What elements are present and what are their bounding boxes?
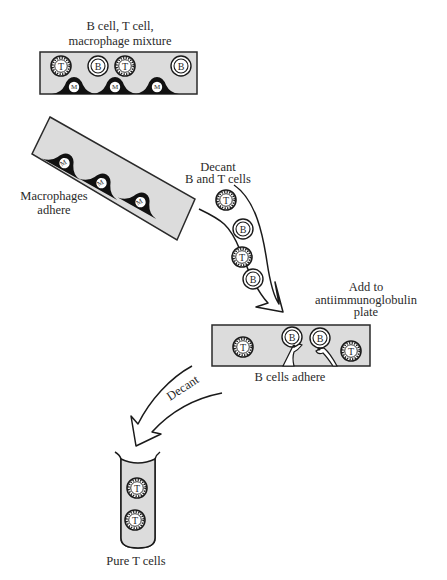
svg-text:B: B <box>95 61 102 72</box>
decant-b-and-t-cells: Decant B and T cells T B T B <box>185 160 283 312</box>
t-cell: T <box>51 56 71 76</box>
svg-text:T: T <box>132 515 138 526</box>
step2-label-line2: adhere <box>37 203 71 217</box>
decant-arrow-small <box>131 366 222 446</box>
svg-text:T: T <box>239 252 245 263</box>
svg-text:M: M <box>112 83 119 91</box>
pure-t-cells-caption: Pure T cells <box>106 554 165 568</box>
t-cell: T <box>232 247 252 267</box>
svg-text:T: T <box>240 342 246 353</box>
step2-label-line1: Macrophages <box>20 189 87 203</box>
svg-text:T: T <box>122 61 128 72</box>
t-cell-purification-diagram: B cell, T cell, macrophage mixture T B T… <box>0 0 447 580</box>
b-cell: B <box>88 56 108 76</box>
svg-text:B: B <box>289 332 296 343</box>
svg-text:T: T <box>58 61 64 72</box>
b-cell: B <box>171 56 191 76</box>
t-cell: T <box>127 478 147 498</box>
tilted-plate <box>32 117 195 240</box>
step1-mixture: B cell, T cell, macrophage mixture T B T… <box>40 19 197 94</box>
step1-label-line2: macrophage mixture <box>68 34 172 48</box>
step1-label-line1: B cell, T cell, <box>86 19 153 33</box>
decant-step: Decant <box>131 366 222 446</box>
t-cell: T <box>341 341 361 361</box>
b-cell: B <box>233 219 253 239</box>
step2-macrophages-adhere: M M M Macrophages adhere <box>20 117 195 240</box>
svg-text:T: T <box>134 483 140 494</box>
t-cell: T <box>233 337 253 357</box>
svg-text:B: B <box>240 224 247 235</box>
t-cell: T <box>115 56 135 76</box>
b-cell: B <box>243 269 263 289</box>
svg-text:M: M <box>154 83 161 91</box>
svg-text:T: T <box>223 195 229 206</box>
svg-text:M: M <box>71 83 78 91</box>
decant1-label-line2: B and T cells <box>185 172 251 186</box>
svg-text:B: B <box>250 274 257 285</box>
t-cell: T <box>216 190 236 210</box>
t-cell: T <box>125 510 145 530</box>
step3-label-line3: plate <box>354 305 379 319</box>
b-cells-adhere-caption: B cells adhere <box>255 370 326 384</box>
step4-pure-t-cells: T T Pure T cells <box>106 452 165 568</box>
svg-text:T: T <box>348 346 354 357</box>
step3-label-line1: Add to <box>349 280 383 294</box>
svg-text:B: B <box>178 61 185 72</box>
step3-antiimmunoglobulin-plate: Add to antiimmunoglobulin plate T B B T … <box>212 280 418 384</box>
svg-text:B: B <box>317 333 324 344</box>
